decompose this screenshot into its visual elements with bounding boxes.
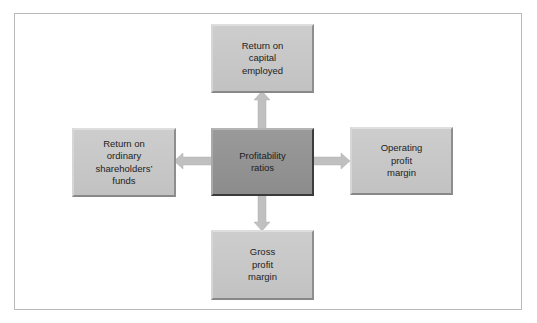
node-gross-profit-margin: Gross profit margin (211, 230, 314, 300)
node-profitability-ratios: Profitability ratios (211, 128, 314, 196)
node-operating-profit-margin: Operating profit margin (350, 127, 453, 195)
node-label: Return on ordinary shareholders’ funds (95, 138, 152, 188)
arrow-left-icon (174, 152, 212, 170)
node-label: Operating profit margin (381, 142, 423, 179)
arrow-right-icon (312, 152, 350, 170)
node-return-on-capital-employed: Return on capital employed (211, 24, 314, 93)
arrow-up-icon (253, 91, 271, 129)
arrow-down-icon (253, 194, 271, 231)
node-label: Profitability ratios (239, 150, 285, 175)
node-label: Return on capital employed (242, 40, 284, 77)
node-label: Gross profit margin (248, 246, 277, 283)
node-return-on-ordinary-shareholders-funds: Return on ordinary shareholders’ funds (72, 128, 176, 197)
